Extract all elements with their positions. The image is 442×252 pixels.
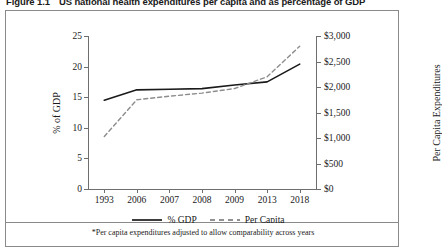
y-axis-right-tick xyxy=(317,36,321,37)
x-axis-tick-label: 2007 xyxy=(160,195,179,205)
x-axis-tick xyxy=(202,189,203,193)
x-axis-tick xyxy=(267,189,268,193)
figure-title: Figure 1.1US national health expenditure… xyxy=(6,0,405,10)
y-axis-right-tick xyxy=(317,62,321,63)
y-axis-left-tick-label: 25 xyxy=(73,31,83,41)
x-axis-tick-label: 2018 xyxy=(290,195,309,205)
y-axis-right-tick-label: $1,000 xyxy=(324,133,350,143)
x-axis-tick-label: 2008 xyxy=(193,195,212,205)
y-axis-right-tick-label: $0 xyxy=(324,184,334,194)
x-axis-tick xyxy=(104,189,105,193)
y-axis-left-tick-label: 10 xyxy=(73,123,83,133)
series-plot xyxy=(88,36,316,189)
y-axis-left-tick-label: 5 xyxy=(77,153,82,163)
figure-footnote: *Per capita expenditures adjusted to all… xyxy=(6,228,400,237)
y-axis-right-tick xyxy=(317,189,321,190)
y-axis-right-tick xyxy=(317,113,321,114)
y-axis-right-tick xyxy=(317,138,321,139)
y-axis-right-tick-label: $500 xyxy=(324,159,343,169)
x-axis-tick-label: 2013 xyxy=(258,195,277,205)
y-axis-left-tick xyxy=(84,189,88,190)
y-axis-right-tick-label: $1,500 xyxy=(324,108,350,118)
x-axis-tick xyxy=(137,189,138,193)
chart-frame: 0510152025 $0$500$1,000$1,500$2,000$2,50… xyxy=(5,10,399,223)
y-axis-right-tick-label: $2,000 xyxy=(324,82,350,92)
plot-area: 0510152025 $0$500$1,000$1,500$2,000$2,50… xyxy=(88,36,316,189)
y-axis-right-tick-label: $3,000 xyxy=(324,31,350,41)
x-axis-tick xyxy=(300,189,301,193)
y-axis-left-title: % of GDP xyxy=(51,92,62,134)
x-axis-tick-label: 2006 xyxy=(127,195,146,205)
footnote-box: *Per capita expenditures adjusted to all… xyxy=(5,223,399,247)
y-axis-left-tick-label: 15 xyxy=(73,92,83,102)
y-axis-right-tick xyxy=(317,164,321,165)
x-axis-tick xyxy=(235,189,236,193)
x-axis-tick-label: 2009 xyxy=(225,195,244,205)
y-axis-left-tick-label: 20 xyxy=(73,62,83,72)
series-line-pct-gdp xyxy=(104,64,299,100)
x-axis-tick-label: 1993 xyxy=(95,195,114,205)
figure-title-text: US national health expenditures per capi… xyxy=(59,0,365,7)
y-axis-right-tick-label: $2,500 xyxy=(324,57,350,67)
x-axis-tick xyxy=(169,189,170,193)
figure-number: Figure 1.1 xyxy=(6,0,50,7)
y-axis-left-tick-label: 0 xyxy=(77,184,82,194)
y-axis-right-title: Per Capita Expenditures xyxy=(431,64,442,161)
y-axis-right-tick xyxy=(317,87,321,88)
